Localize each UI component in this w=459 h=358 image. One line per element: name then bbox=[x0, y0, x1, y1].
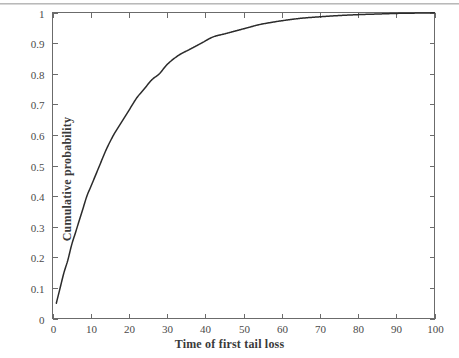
y-tick-label: 0.7 bbox=[0, 99, 45, 110]
x-tick-label: 50 bbox=[239, 324, 250, 335]
y-tick-label: 0.5 bbox=[0, 161, 45, 172]
y-tick-label: 0.6 bbox=[0, 130, 45, 141]
x-tick-label: 80 bbox=[353, 324, 364, 335]
x-tick-label: 60 bbox=[277, 324, 288, 335]
x-tick-label: 100 bbox=[427, 324, 444, 335]
y-tick-label: 0.1 bbox=[0, 283, 45, 294]
y-tick-label: 0.8 bbox=[0, 69, 45, 80]
x-tick-label: 10 bbox=[86, 324, 97, 335]
cdf-curve bbox=[56, 13, 434, 303]
x-tick-label: 70 bbox=[315, 324, 326, 335]
y-tick-label: 0 bbox=[0, 314, 45, 325]
x-tick-label: 0 bbox=[51, 324, 57, 335]
figure-canvas: 0102030405060708090100 00.10.20.30.40.50… bbox=[0, 0, 459, 358]
x-tick-label: 30 bbox=[162, 324, 173, 335]
y-tick-label: 1 bbox=[0, 8, 45, 19]
y-tick-label: 0.9 bbox=[0, 38, 45, 49]
axes-box bbox=[53, 13, 435, 319]
y-tick-label: 0.2 bbox=[0, 252, 45, 263]
axes-frame bbox=[53, 13, 435, 319]
y-tick-label: 0.4 bbox=[0, 191, 45, 202]
x-axis-title: Time of first tail loss bbox=[0, 337, 459, 352]
x-axis-ticks bbox=[54, 13, 436, 319]
x-tick-label: 90 bbox=[391, 324, 402, 335]
y-tick-label: 0.3 bbox=[0, 222, 45, 233]
x-tick-label: 40 bbox=[200, 324, 211, 335]
x-tick-label: 20 bbox=[124, 324, 135, 335]
y-axis-ticks bbox=[53, 14, 435, 320]
y-axis-title: Cumulative probability bbox=[60, 117, 75, 242]
